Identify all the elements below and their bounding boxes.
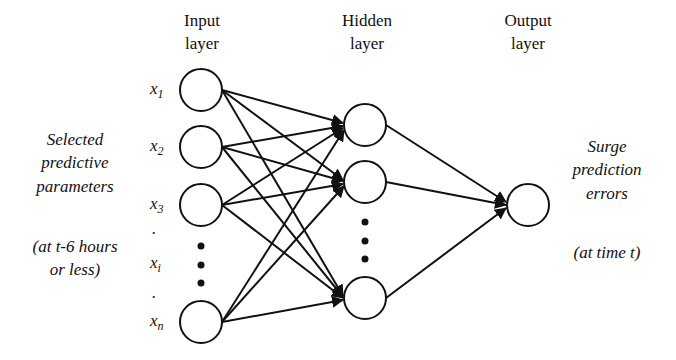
edge bbox=[222, 130, 344, 322]
input-labels: x1 x2 x3 . xi . xn bbox=[149, 79, 164, 333]
output-layer bbox=[507, 184, 549, 226]
edge bbox=[222, 186, 344, 322]
edge bbox=[222, 300, 343, 322]
hidden-layer bbox=[344, 104, 386, 319]
input-node-x3 bbox=[180, 184, 222, 226]
vertical-ellipsis-dot: . bbox=[152, 219, 156, 238]
input-label-x2: x2 bbox=[149, 136, 164, 158]
input-label-x3: x3 bbox=[149, 194, 164, 216]
input-node-x2 bbox=[180, 126, 222, 168]
hidden-node bbox=[344, 104, 386, 146]
left-annotation-line: Selected bbox=[47, 130, 104, 149]
ellipsis-dot-icon bbox=[362, 256, 369, 263]
input-label-xi: xi bbox=[149, 253, 161, 275]
ellipsis-dot-icon bbox=[198, 262, 205, 269]
hidden-node bbox=[344, 161, 386, 203]
input-layer bbox=[180, 69, 222, 343]
input-hidden-edges bbox=[222, 90, 344, 322]
layer-headers: Input layer Hidden layer Output layer bbox=[184, 11, 552, 53]
input-label-x1: x1 bbox=[149, 79, 164, 101]
right-annotation-line: Surge bbox=[587, 137, 626, 156]
right-annotation-line: prediction bbox=[571, 160, 641, 179]
edge bbox=[386, 182, 506, 205]
output-node bbox=[507, 184, 549, 226]
input-node-x1 bbox=[180, 69, 222, 111]
hidden-output-edges bbox=[386, 125, 506, 298]
hidden-node bbox=[344, 277, 386, 319]
right-time-line: (at time t) bbox=[573, 243, 640, 262]
input-layer-title: Input bbox=[184, 11, 220, 30]
hidden-layer-subtitle: layer bbox=[350, 34, 384, 53]
input-node-xn bbox=[180, 301, 222, 343]
ellipsis-dot-icon bbox=[198, 280, 205, 287]
left-annotation-line: parameters bbox=[35, 177, 114, 196]
ellipsis-dot-icon bbox=[362, 219, 369, 226]
left-time-line: or less) bbox=[50, 260, 101, 279]
right-annotation-line: errors bbox=[586, 184, 628, 203]
vertical-ellipsis-dot: . bbox=[152, 283, 156, 302]
edge bbox=[222, 147, 343, 297]
neural-network-diagram: Input layer Hidden layer Output layer Se… bbox=[0, 0, 676, 360]
right-annotation: Surge prediction errors (at time t) bbox=[571, 137, 641, 262]
ellipsis-dot-icon bbox=[362, 238, 369, 245]
edge bbox=[222, 90, 343, 123]
ellipsis-dot-icon bbox=[198, 243, 205, 250]
edge bbox=[222, 147, 343, 181]
edge bbox=[386, 208, 506, 298]
hidden-layer-title: Hidden bbox=[342, 11, 393, 30]
left-annotation: Selected predictive parameters (at t-6 h… bbox=[33, 130, 118, 279]
output-layer-subtitle: layer bbox=[511, 34, 545, 53]
input-layer-subtitle: layer bbox=[185, 34, 219, 53]
edge bbox=[386, 125, 506, 202]
left-annotation-line: predictive bbox=[40, 153, 109, 172]
edge bbox=[222, 205, 343, 298]
left-time-line: (at t-6 hours bbox=[33, 237, 118, 256]
output-layer-title: Output bbox=[504, 11, 552, 30]
input-label-xn: xn bbox=[149, 311, 164, 333]
edge bbox=[222, 126, 343, 147]
